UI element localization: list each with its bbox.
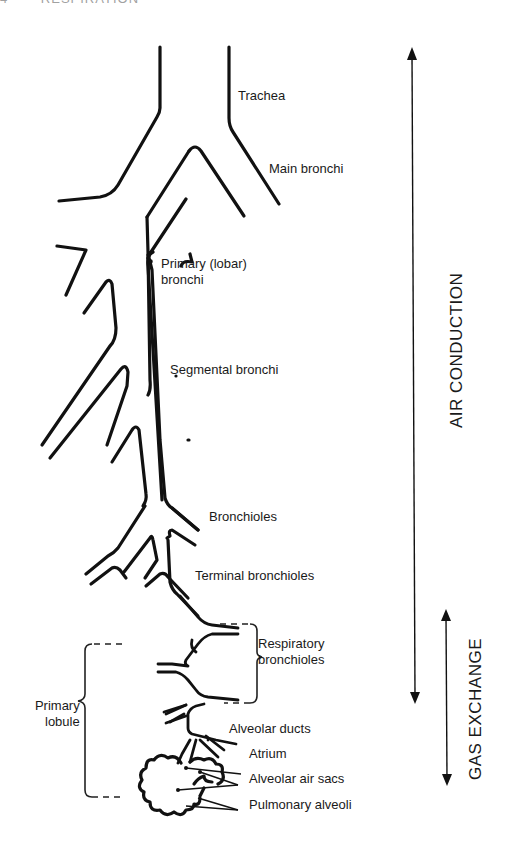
- label-atrium: Atrium: [249, 746, 287, 762]
- primary-lobule-bracket: [78, 644, 124, 797]
- label-respiratory-bronchioles-line2: bronchioles: [258, 652, 325, 668]
- label-terminal-bronchioles: Terminal bronchioles: [195, 568, 314, 584]
- label-air-conduction: AIR CONDUCTION: [447, 273, 467, 428]
- trachea-shape: [59, 47, 279, 217]
- label-segmental-bronchi: Segmental bronchi: [170, 362, 278, 378]
- label-trachea: Trachea: [238, 88, 285, 104]
- label-main-bronchi: Main bronchi: [269, 161, 343, 177]
- air-conduction-arrow: [407, 47, 420, 704]
- label-gas-exchange: GAS EXCHANGE: [466, 638, 486, 780]
- label-primary-lobule: Primary lobule: [31, 698, 80, 730]
- alveolar-sac-cluster: [139, 755, 223, 814]
- label-pulmonary-alveoli: Pulmonary alveoli: [249, 797, 352, 813]
- label-respiratory-bronchioles-line1: Respiratory: [258, 636, 325, 652]
- respiratory-bronchioles-bracket: [220, 624, 262, 703]
- label-primary-bronchi-line2: bronchi: [161, 272, 247, 288]
- label-primary-lobule-line2: lobule: [31, 714, 80, 730]
- gas-exchange-arrow: [441, 609, 452, 786]
- label-primary-bronchi-line1: Primary (lobar): [161, 256, 247, 272]
- label-primary-bronchi: Primary (lobar) bronchi: [161, 256, 247, 288]
- leader-lines: [176, 766, 241, 810]
- label-bronchioles: Bronchioles: [209, 509, 277, 525]
- label-primary-lobule-line1: Primary: [31, 698, 80, 714]
- label-alveolar-air-sacs: Alveolar air sacs: [249, 771, 344, 787]
- label-respiratory-bronchioles: Respiratory bronchioles: [258, 636, 325, 668]
- left-branches: [42, 246, 146, 506]
- label-alveolar-ducts: Alveolar ducts: [229, 721, 311, 737]
